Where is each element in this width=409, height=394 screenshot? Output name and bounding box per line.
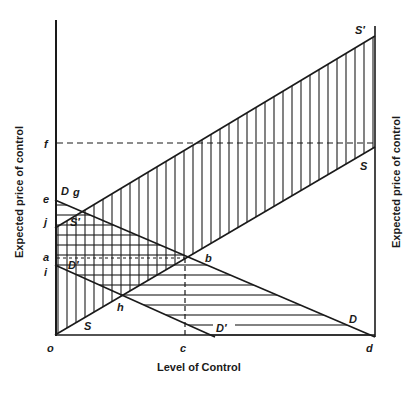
label-d-prime-right: D′ — [216, 322, 228, 334]
point-f: f — [44, 138, 49, 150]
label-s-right: S — [360, 160, 368, 172]
point-g: g — [72, 186, 80, 198]
y-axis-title-right: Expected price of control — [390, 116, 402, 248]
economics-diagram: S′ S D D′ D S′ D′ S o c d f e j a i g b … — [0, 0, 409, 394]
point-b: b — [205, 252, 212, 264]
label-d-right: D — [349, 313, 357, 325]
label-s-prime-left: S′ — [70, 216, 81, 228]
label-s-lower: S — [84, 320, 92, 332]
point-c: c — [180, 342, 186, 354]
label-s-prime-right: S′ — [355, 24, 366, 36]
label-d-prime-left: D′ — [68, 259, 80, 271]
point-e: e — [43, 193, 49, 205]
label-d-left: D — [61, 185, 69, 197]
point-h: h — [117, 301, 124, 313]
y-axis-title-left: Expected price of control — [13, 126, 25, 258]
point-d: d — [366, 342, 373, 354]
point-j: j — [42, 216, 48, 228]
point-i: i — [44, 266, 48, 278]
point-a: a — [43, 251, 49, 263]
point-o: o — [47, 342, 54, 354]
x-axis-title: Level of Control — [157, 361, 241, 373]
